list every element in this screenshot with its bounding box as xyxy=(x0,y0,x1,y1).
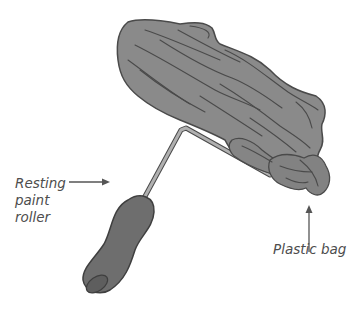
roller-label: Resting paint roller xyxy=(15,175,66,226)
plastic-bag-label: Plastic bag xyxy=(273,241,346,258)
plastic-bag xyxy=(117,20,329,195)
illustration-canvas: Resting paint roller Plastic bag xyxy=(0,0,353,309)
paint-roller-illustration xyxy=(0,0,353,309)
roller-handle xyxy=(83,196,154,297)
